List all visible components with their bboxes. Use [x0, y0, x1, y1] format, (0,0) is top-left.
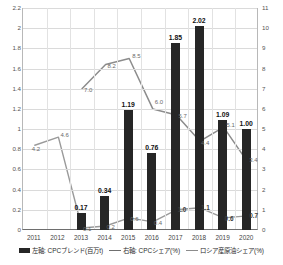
data-point-label: 1.1 [201, 205, 210, 211]
right-axis-tick-label: 11 [262, 5, 280, 11]
data-point-label: 0.1 [83, 226, 91, 232]
left-axis-tick-label: 0 [1, 227, 21, 233]
right-axis-tick-label: 6 [262, 106, 280, 112]
data-point-label: 0.6 [225, 216, 234, 222]
data-point-label: 4.4 [201, 140, 209, 146]
gridline-vertical [47, 8, 48, 229]
right-axis-tick-label: 4 [262, 146, 280, 152]
x-axis-tick-label: 2018 [186, 234, 212, 242]
gridline-vertical [94, 8, 95, 229]
bar [171, 43, 180, 230]
x-axis-tick-label: 2012 [44, 234, 70, 242]
x-axis-tick-label: 2015 [115, 234, 141, 242]
data-point-label: 7.0 [84, 87, 92, 93]
data-point-label: 5.1 [227, 122, 235, 128]
left-axis-tick-label: 2.2 [1, 5, 21, 11]
left-axis-tick-label: 1.4 [1, 86, 21, 92]
bar [147, 153, 156, 230]
data-point-label: 0.7 [249, 213, 258, 219]
data-point-label: 0.6 [130, 216, 138, 222]
legend-label-cpc-blend: 左軸: CPCブレンド(百万t) [32, 246, 103, 255]
right-axis-tick-label: 1 [262, 207, 280, 213]
x-axis-tick-label: 2017 [162, 234, 188, 242]
data-point-label: 0.4 [154, 220, 162, 226]
bar-value-label: 1.00 [232, 120, 260, 127]
gridline-vertical [141, 8, 142, 229]
right-axis-tick-label: 3 [262, 166, 280, 172]
bar [124, 110, 133, 230]
data-point-label: 8.2 [108, 63, 116, 69]
left-axis-tick-label: 0.6 [1, 166, 21, 172]
bar-swatch-icon [19, 248, 30, 253]
data-point-label: 3.4 [249, 157, 257, 163]
line-swatch-icon [186, 250, 198, 251]
data-point-label: 6.0 [155, 99, 163, 105]
bar [195, 26, 204, 230]
legend-item-cpc-blend[interactable]: 左軸: CPCブレンド(百万t) [19, 246, 103, 255]
right-axis-tick-label: 5 [262, 126, 280, 132]
gridline-vertical [117, 8, 118, 229]
legend-item-cpc-share[interactable]: 右軸: CPCシェア(%) [109, 246, 180, 255]
right-axis-tick-label: 8 [262, 66, 280, 72]
left-axis-tick-label: 0.2 [1, 207, 21, 213]
chart-container: 00.20.40.60.811.21.41.61.822.2 012345678… [0, 0, 283, 265]
chart-legend: 左軸: CPCブレンド(百万t) 右軸: CPCシェア(%) ロシア産原油シェア… [0, 246, 283, 255]
gridline [23, 28, 257, 29]
x-axis-tick-label: 2019 [210, 234, 236, 242]
gridline [23, 89, 257, 90]
gridline-vertical [70, 8, 71, 229]
line-swatch-icon [109, 250, 121, 251]
left-axis-tick-label: 1.8 [1, 45, 21, 51]
left-axis-tick-label: 0.8 [1, 146, 21, 152]
data-point-label: 4.2 [32, 146, 40, 152]
right-axis-tick-label: 0 [262, 227, 280, 233]
right-axis-tick-label: 2 [262, 187, 280, 193]
data-point-label: 1.0 [177, 207, 186, 213]
x-axis-tick-label: 2013 [68, 234, 94, 242]
bar-value-label: 0.17 [67, 204, 95, 211]
x-axis-tick-label: 2020 [233, 234, 259, 242]
gridline-vertical [235, 8, 236, 229]
bar-value-label: 1.85 [161, 34, 189, 41]
bar-value-label: 1.19 [114, 101, 142, 108]
gridline [23, 69, 257, 70]
data-point-label: 5.7 [178, 113, 186, 119]
legend-label-cpc-share: 右軸: CPCシェア(%) [123, 246, 180, 255]
bar-value-label: 0.76 [138, 144, 166, 151]
data-point-label: 0.2 [107, 224, 115, 230]
data-point-label: 4.6 [60, 132, 68, 138]
bar-value-label: 2.02 [185, 17, 213, 24]
x-axis-tick-label: 2014 [92, 234, 118, 242]
gridline-vertical [212, 8, 213, 229]
x-axis-tick-label: 2011 [21, 234, 47, 242]
left-axis-tick-label: 1.6 [1, 66, 21, 72]
right-axis-tick-label: 10 [262, 25, 280, 31]
x-axis-tick-label: 2016 [139, 234, 165, 242]
left-axis-tick-label: 1.2 [1, 106, 21, 112]
legend-item-russia-share[interactable]: ロシア産原油シェア(%) [186, 246, 264, 255]
gridline [23, 109, 257, 110]
gridline [23, 8, 257, 9]
left-axis-tick-label: 0.4 [1, 187, 21, 193]
right-axis-tick-label: 9 [262, 45, 280, 51]
gridline [23, 48, 257, 49]
legend-label-russia-share: ロシア産原油シェア(%) [200, 246, 264, 255]
left-axis-tick-label: 1 [1, 126, 21, 132]
data-point-label: 8.5 [132, 53, 140, 59]
right-axis-tick-label: 7 [262, 86, 280, 92]
bar-value-label: 1.09 [209, 111, 237, 118]
bar [218, 120, 227, 230]
left-axis-tick-label: 2 [1, 25, 21, 31]
bar-value-label: 0.34 [91, 187, 119, 194]
